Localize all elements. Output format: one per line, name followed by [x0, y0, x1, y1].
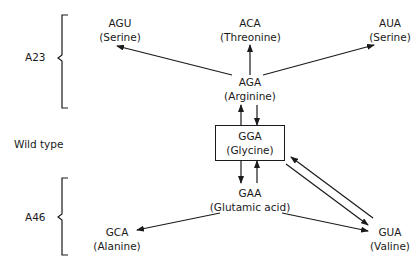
codon-mutation-diagram: A23 Wild type A46 AGU (Serine) ACA (Thre…: [0, 0, 415, 266]
node-gua: GUA (Valine): [365, 225, 415, 253]
amino-acid-label: (Alanine): [92, 239, 142, 253]
codon-label: AGA: [220, 75, 280, 89]
codon-label: AGU: [95, 16, 145, 30]
codon-label: GGA: [215, 129, 285, 143]
group-label-a46: A46: [25, 210, 46, 224]
group-label-a23: A23: [25, 50, 46, 64]
bracket-a23: [58, 15, 68, 108]
node-gca: GCA (Alanine): [92, 225, 142, 253]
arrow-gaa-to-gca: [137, 213, 220, 230]
amino-acid-label: (Serine): [95, 30, 145, 44]
codon-label: ACA: [220, 16, 280, 30]
amino-acid-label: (Threonine): [220, 30, 280, 44]
arrow-gua-to-gga: [291, 157, 373, 218]
node-aga: AGA (Arginine): [220, 75, 280, 103]
node-agu: AGU (Serine): [95, 16, 145, 44]
codon-label: AUA: [365, 16, 415, 30]
node-aua: AUA (Serine): [365, 16, 415, 44]
diagram-lines: [0, 0, 415, 266]
node-gaa: GAA (Glutamic acid): [205, 186, 295, 214]
amino-acid-label: (Glycine): [215, 143, 285, 157]
amino-acid-label: (Valine): [365, 239, 415, 253]
codon-label: GCA: [92, 225, 142, 239]
codon-label: GAA: [205, 186, 295, 200]
bracket-a46: [58, 178, 68, 255]
amino-acid-label: (Serine): [365, 30, 415, 44]
amino-acid-label: (Glutamic acid): [205, 200, 295, 214]
arrow-aga-to-aua: [263, 45, 374, 75]
amino-acid-label: (Arginine): [220, 89, 280, 103]
node-aca: ACA (Threonine): [220, 16, 280, 44]
node-gga: GGA (Glycine): [215, 129, 285, 157]
group-label-wild-type: Wild type: [14, 137, 63, 151]
arrow-aga-to-agu: [117, 46, 232, 75]
codon-label: GUA: [365, 225, 415, 239]
